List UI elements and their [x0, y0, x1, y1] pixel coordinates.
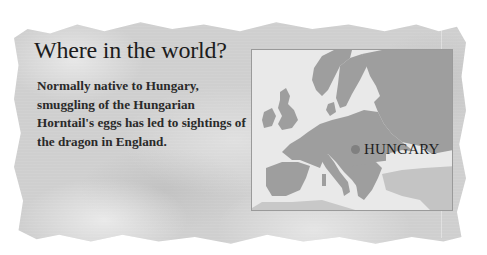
hungary-label: HUNGARY: [364, 141, 440, 158]
panel-description: Normally native to Hungary, smuggling of…: [37, 77, 247, 151]
hungary-location-marker: [351, 145, 360, 154]
panel-title: Where in the world?: [34, 37, 227, 64]
europe-map: [251, 49, 453, 211]
europe-map-shapes: [252, 50, 453, 211]
